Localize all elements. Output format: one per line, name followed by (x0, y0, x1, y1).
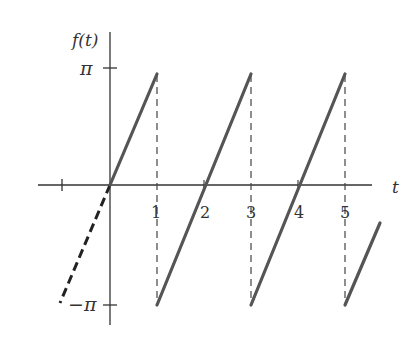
x-axis-label: t (392, 177, 399, 197)
y-axis-label: f(t) (70, 30, 98, 50)
y-tick-label-neg-pi: −π (68, 293, 97, 315)
dashed-extension (60, 185, 110, 303)
x-tick-label-2: 2 (200, 203, 210, 222)
sawtooth-series (110, 74, 380, 305)
x-tick-label-3: 3 (246, 203, 256, 222)
x-tick-label-5: 5 (340, 203, 350, 222)
x-tick-label-1: 1 (151, 203, 161, 222)
sawtooth-chart: f(t) t π −π 1 2 3 4 5 (0, 0, 418, 339)
x-tick-label-4: 4 (294, 203, 304, 222)
y-tick-label-pi: π (79, 57, 93, 79)
discontinuity-guides (157, 75, 345, 303)
